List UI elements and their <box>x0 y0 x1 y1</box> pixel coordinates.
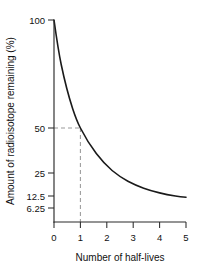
y-tick-label-25: 25 <box>34 168 45 179</box>
half-life-decay-chart: 100 50 25 12.5 6.25 0 1 2 3 4 5 Number o… <box>0 0 199 272</box>
x-tick-label-4: 4 <box>157 232 162 243</box>
x-tick-label-0: 0 <box>51 232 56 243</box>
x-tick-label-3: 3 <box>131 232 136 243</box>
chart-background <box>0 0 199 272</box>
decay-curve-figure: 100 50 25 12.5 6.25 0 1 2 3 4 5 Number o… <box>0 0 199 272</box>
y-tick-label-100: 100 <box>29 15 45 26</box>
x-tick-label-2: 2 <box>104 232 109 243</box>
y-axis-title: Amount of radioisotope remaining (%) <box>5 37 16 205</box>
x-tick-label-5: 5 <box>183 232 188 243</box>
x-axis-title: Number of half-lives <box>76 252 165 263</box>
y-tick-label-6-25: 6.25 <box>27 203 46 214</box>
y-tick-label-12-5: 12.5 <box>27 191 46 202</box>
x-tick-label-1: 1 <box>78 232 83 243</box>
y-tick-label-50: 50 <box>34 123 45 134</box>
